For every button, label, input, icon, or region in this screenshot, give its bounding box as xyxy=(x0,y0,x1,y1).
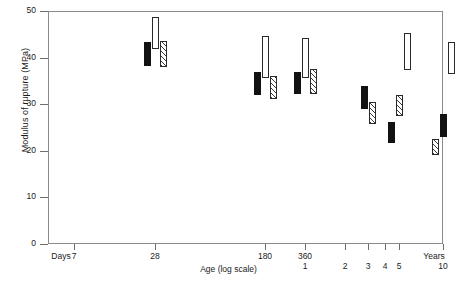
bar-5-years-solid xyxy=(388,122,395,143)
x-tick-180 xyxy=(265,244,266,250)
y-tick-0 xyxy=(40,244,48,245)
x-tick-label-days-180: 180 xyxy=(250,251,280,261)
bar-28-days-open xyxy=(152,17,159,50)
x-tick-3 xyxy=(368,244,369,250)
x-axis-days-label: Days xyxy=(44,251,78,261)
bar-180-days-open xyxy=(262,36,269,78)
bar-360-days-solid xyxy=(294,72,301,94)
bar-180-days-hatch xyxy=(270,76,277,99)
x-tick-2 xyxy=(345,244,346,250)
figure: Modulus of rupture (MPa) 01020304050 728… xyxy=(0,0,457,285)
x-tick-28 xyxy=(155,244,156,250)
y-tick-label-30: 30 xyxy=(6,98,36,108)
x-axis-years-label: Years xyxy=(417,251,451,261)
bar-5-years-hatch xyxy=(396,95,403,116)
y-tick-30 xyxy=(40,104,48,105)
x-tick-10 xyxy=(443,244,444,250)
bar-3-years-solid xyxy=(361,86,368,108)
y-tick-40 xyxy=(40,58,48,59)
y-tick-label-0: 0 xyxy=(6,238,36,248)
y-tick-label-50: 50 xyxy=(6,5,36,15)
y-tick-20 xyxy=(40,151,48,152)
x-tick-7 xyxy=(74,244,75,250)
bar-180-days-solid xyxy=(254,72,261,95)
x-tick-label-days-360: 360 xyxy=(290,251,320,261)
bar-28-days-hatch xyxy=(160,41,167,67)
bar-10-years-open xyxy=(448,42,455,75)
y-tick-10 xyxy=(40,197,48,198)
bar-28-days-solid xyxy=(144,42,151,66)
x-tick-360 xyxy=(305,244,306,250)
bar-10-years-solid xyxy=(440,114,447,137)
y-tick-label-20: 20 xyxy=(6,145,36,155)
plot-area xyxy=(48,11,443,244)
bar-3-years-hatch xyxy=(369,102,376,124)
x-tick-label-days-28: 28 xyxy=(140,251,170,261)
bar-5-years-open xyxy=(404,33,411,69)
x-tick-5 xyxy=(399,244,400,250)
x-axis-title: Age (log scale) xyxy=(0,264,457,274)
bar-10-years-hatch xyxy=(432,139,439,155)
bar-360-days-open xyxy=(302,38,309,78)
y-tick-label-40: 40 xyxy=(6,52,36,62)
bar-360-days-hatch xyxy=(310,69,317,94)
x-tick-4 xyxy=(385,244,386,250)
y-tick-50 xyxy=(40,11,48,12)
y-tick-label-10: 10 xyxy=(6,191,36,201)
